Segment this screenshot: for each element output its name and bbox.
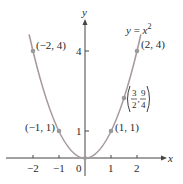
y-tick-label: 4 bbox=[76, 45, 82, 57]
point-label-neg2-4: (−2, 4) bbox=[36, 39, 66, 52]
function-label: y = x2 bbox=[125, 22, 152, 36]
svg-text:,: , bbox=[138, 94, 140, 104]
x-axis-label: x bbox=[167, 152, 173, 164]
y-axis-label: y bbox=[81, 6, 87, 18]
point-1-1 bbox=[109, 129, 114, 134]
y-axis-arrow-icon bbox=[83, 19, 88, 25]
point-origin bbox=[83, 156, 87, 160]
parabola-chart: y x −2 −1 0 1 2 1 4 y = x2 (−2, 4) (−1, … bbox=[0, 0, 183, 184]
x-tick-label: 0 bbox=[76, 162, 82, 174]
y-tick-label: 1 bbox=[76, 125, 82, 137]
point-2-4 bbox=[135, 49, 140, 54]
point-label-1-1: (1, 1) bbox=[115, 121, 139, 134]
svg-text:3: 3 bbox=[132, 88, 137, 98]
svg-text:9: 9 bbox=[141, 88, 146, 98]
x-tick-label: −1 bbox=[53, 162, 65, 174]
point-neg1-1 bbox=[57, 129, 62, 134]
x-axis-arrow-icon bbox=[161, 156, 167, 161]
point-label-neg1-1: (−1, 1) bbox=[25, 121, 55, 134]
point-label-3half-9quarter: 3 2 , 9 4 bbox=[128, 86, 150, 112]
svg-text:4: 4 bbox=[141, 100, 146, 110]
svg-text:2: 2 bbox=[132, 100, 137, 110]
x-tick-label: −2 bbox=[27, 162, 39, 174]
point-3half-9quarter bbox=[122, 96, 127, 101]
x-tick-label: 1 bbox=[108, 162, 114, 174]
x-tick-label: 2 bbox=[134, 162, 140, 174]
point-neg2-4 bbox=[31, 49, 36, 54]
y-ticks bbox=[85, 51, 89, 131]
point-label-2-4: (2, 4) bbox=[141, 38, 165, 51]
